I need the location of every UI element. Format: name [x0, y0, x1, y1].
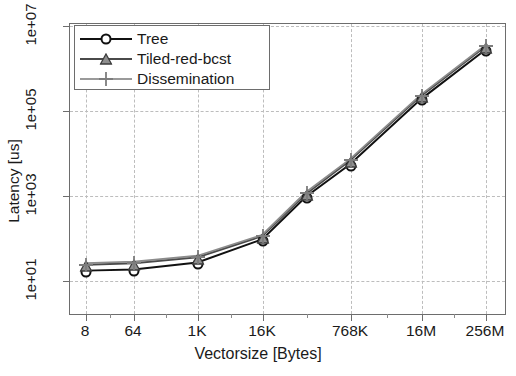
legend-swatch-dissemination	[80, 69, 132, 89]
y-tick-mark	[63, 111, 70, 112]
x-tick-mark	[198, 314, 199, 321]
plus-icon	[415, 88, 430, 103]
plus-icon	[256, 229, 271, 244]
x-tick-minor	[110, 314, 111, 318]
x-tick-label: 8	[81, 322, 90, 340]
y-tick-mark	[63, 281, 70, 282]
x-tick-label: 64	[124, 322, 141, 340]
legend-label-tree: Tree	[137, 30, 168, 48]
x-tick-minor	[387, 314, 388, 318]
x-tick-label: 768K	[332, 322, 368, 340]
x-tick-mark	[351, 314, 352, 321]
legend-entry-dissemination: Dissemination	[80, 68, 234, 89]
legend-swatch-tiled-red-bcst	[80, 49, 132, 69]
legend-entry-tree: Tree	[80, 28, 168, 49]
plus-icon	[99, 71, 114, 86]
legend-entry-tiled-red-bcst: Tiled-red-bcst	[80, 48, 231, 69]
x-tick-mark	[134, 314, 135, 321]
legend-label-tiled-red-bcst: Tiled-red-bcst	[137, 50, 231, 68]
plus-icon	[79, 257, 94, 272]
plus-icon	[344, 153, 359, 168]
x-tick-minor	[231, 314, 232, 318]
y-axis-title: Latency [us]	[5, 121, 23, 241]
x-tick-minor	[166, 314, 167, 318]
y-tick-mark	[63, 196, 70, 197]
x-tick-label: 16M	[406, 322, 436, 340]
x-tick-mark	[263, 314, 264, 321]
plus-icon	[479, 39, 494, 54]
plus-icon	[191, 250, 206, 265]
plus-icon	[127, 256, 142, 271]
legend-swatch-tree	[80, 29, 132, 49]
chart-figure: Latency [us] 1e+011e+031e+051e+07 Tree	[0, 0, 516, 376]
x-tick-minor	[307, 314, 308, 318]
circle-icon	[101, 33, 112, 44]
x-tick-mark	[486, 314, 487, 321]
x-tick-mark	[86, 314, 87, 321]
x-tick-label: 1K	[188, 322, 207, 340]
plot-area: Tree Tiled-red-bcst	[69, 23, 506, 315]
x-tick-label: 256M	[466, 322, 505, 340]
x-tick-minor	[454, 314, 455, 318]
plus-icon	[300, 186, 315, 201]
x-tick-mark	[422, 314, 423, 321]
legend-box: Tree Tiled-red-bcst	[74, 25, 270, 90]
legend-label-dissemination: Dissemination	[137, 70, 234, 88]
x-tick-label: 16K	[248, 322, 276, 340]
triangle-icon	[100, 53, 113, 65]
y-tick-mark	[63, 26, 70, 27]
x-axis-title: Vectorsize [Bytes]	[0, 345, 516, 363]
